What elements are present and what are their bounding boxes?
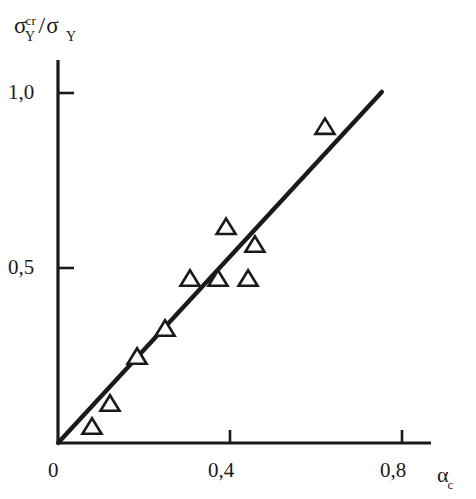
data-markers-group [83,118,335,433]
data-point-marker [316,118,335,133]
fit-line-group [58,92,382,443]
data-point-marker [217,219,236,235]
data-point-marker [181,270,200,286]
data-point-marker [239,270,258,286]
data-point-marker [101,395,120,411]
figure-container: σcrY/σY αc 1,0 0,5 0 0,4 0,8 [0,0,476,499]
data-point-marker [83,418,102,434]
plot-area [0,0,476,499]
regression-line [58,92,382,443]
axis-ticks [58,93,402,443]
